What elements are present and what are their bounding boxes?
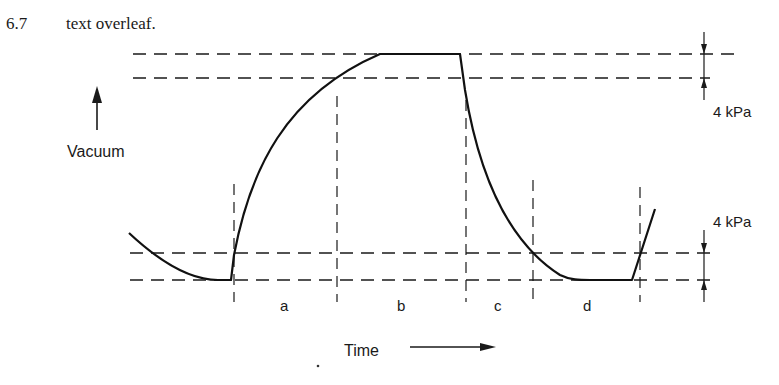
- figure-caption: text overleaf.: [66, 14, 156, 33]
- right-arrow-icon: [480, 343, 496, 351]
- vacuum-time-diagram: 6.7 text overleaf. Vacuum Time 4 kPa 4 k…: [0, 0, 779, 385]
- vacuum-curve: [129, 54, 655, 280]
- figure-number: 6.7: [6, 14, 28, 33]
- phase-label-d: d: [583, 297, 591, 314]
- up-arrow-icon: [701, 78, 707, 88]
- lower-band-label: 4 kPa: [713, 213, 752, 230]
- up-arrow-icon: [92, 86, 102, 103]
- phase-label-b: b: [397, 297, 405, 314]
- speck-mark: [317, 365, 320, 368]
- up-arrow-icon: [701, 280, 707, 290]
- phase-label-c: c: [494, 297, 502, 314]
- phase-label-a: a: [280, 297, 289, 314]
- x-axis-label: Time: [344, 342, 379, 359]
- down-arrow-icon: [701, 243, 707, 253]
- upper-band-label: 4 kPa: [713, 103, 752, 120]
- y-axis-label: Vacuum: [67, 143, 125, 160]
- down-arrow-icon: [701, 44, 707, 54]
